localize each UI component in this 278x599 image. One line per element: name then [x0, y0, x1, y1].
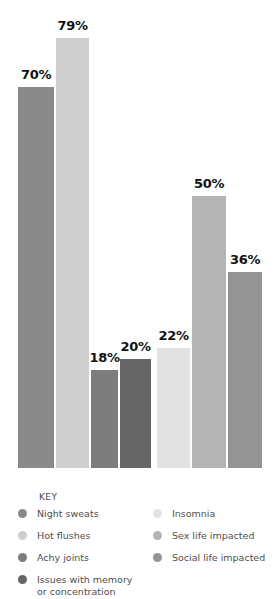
- bar-value-label: 79%: [57, 19, 87, 32]
- bar-group: 36%: [228, 0, 262, 468]
- legend-item[interactable]: Issues with memory or concentration: [18, 574, 158, 598]
- bar-group: 50%: [192, 0, 226, 468]
- legend-item-label: Hot flushes: [37, 530, 90, 542]
- legend-item[interactable]: Social life impacted: [153, 552, 278, 565]
- bar-group: 79%: [56, 0, 89, 468]
- bar[interactable]: [192, 196, 226, 468]
- bar[interactable]: [157, 348, 190, 468]
- bar[interactable]: [120, 359, 151, 468]
- legend-item-label: Achy joints: [37, 552, 89, 564]
- bar-value-label: 22%: [158, 329, 188, 342]
- legend-column-left: Night sweatsHot flushesAchy jointsIssues…: [18, 508, 158, 599]
- legend-column-right: InsomniaSex life impactedSocial life imp…: [153, 508, 278, 574]
- bar-group: 70%: [18, 0, 54, 468]
- bar-group: 18%: [91, 0, 118, 468]
- bar-value-label: 50%: [194, 177, 224, 190]
- bar-group: 20%: [120, 0, 151, 468]
- plot-area: 70%79%18%20%22%50%36%: [0, 0, 278, 470]
- legend-swatch-dot-icon: [18, 575, 27, 584]
- legend-swatch-dot-icon: [18, 553, 27, 562]
- chart-legend: KEY Night sweatsHot flushesAchy jointsIs…: [0, 470, 278, 585]
- legend-item[interactable]: Night sweats: [18, 508, 158, 521]
- legend-item[interactable]: Hot flushes: [18, 530, 158, 543]
- bar[interactable]: [91, 370, 118, 468]
- legend-swatch-dot-icon: [18, 531, 27, 540]
- legend-swatch-dot-icon: [153, 531, 162, 540]
- legend-swatch-dot-icon: [153, 553, 162, 562]
- bar-value-label: 36%: [230, 253, 260, 266]
- bar-group: 22%: [157, 0, 190, 468]
- bar[interactable]: [228, 272, 262, 468]
- bar-value-label: 18%: [89, 351, 119, 364]
- legend-item-label: Issues with memory or concentration: [37, 574, 132, 598]
- bar[interactable]: [56, 38, 89, 468]
- legend-item[interactable]: Achy joints: [18, 552, 158, 565]
- bar-value-label: 20%: [120, 340, 150, 353]
- legend-swatch-dot-icon: [18, 509, 27, 518]
- legend-item-label: Night sweats: [37, 508, 99, 520]
- legend-item[interactable]: Sex life impacted: [153, 530, 278, 543]
- legend-item-label: Sex life impacted: [172, 530, 254, 542]
- legend-swatch-dot-icon: [153, 509, 162, 518]
- bar[interactable]: [18, 87, 54, 468]
- legend-title: KEY: [39, 493, 57, 502]
- legend-item-label: Social life impacted: [172, 552, 265, 564]
- legend-item[interactable]: Insomnia: [153, 508, 278, 521]
- legend-item-label: Insomnia: [172, 508, 215, 520]
- bar-value-label: 70%: [21, 68, 51, 81]
